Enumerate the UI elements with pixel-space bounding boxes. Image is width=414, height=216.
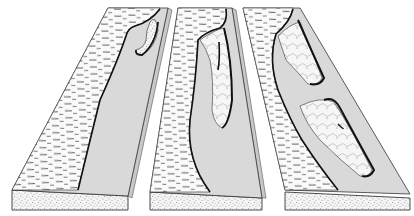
diagram-canvas — [0, 0, 414, 216]
panel-stage-3 — [243, 8, 410, 210]
panel-stage-1 — [12, 8, 172, 210]
sediment-section — [285, 192, 410, 210]
panel-stage-2 — [150, 8, 266, 210]
